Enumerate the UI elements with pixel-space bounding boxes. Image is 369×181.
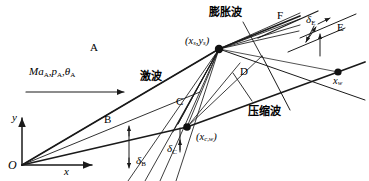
region-label-B: B (104, 114, 111, 125)
reflected-wave-lines (219, 49, 365, 110)
wall-point-label: xw (333, 76, 342, 87)
region-label-A: A (90, 42, 98, 53)
x-axis-label: x (64, 166, 69, 177)
expansion-wave-label: 膨胀波 (209, 7, 242, 18)
compression-point-open: (x (196, 131, 204, 142)
compression-wave-leader (233, 73, 252, 101)
wall-point-sub: w (338, 79, 342, 86)
delta-e-label: δE (306, 14, 315, 27)
compression-point-label: (xc,w) (196, 132, 217, 143)
delta-c-label: δC (167, 143, 177, 156)
compression-wave-label: 压缩波 (248, 106, 281, 117)
delta-e-subscript: E (311, 19, 315, 27)
shock-point-mid: ,y (196, 35, 203, 46)
shock-wave-label: 激波 (140, 71, 162, 82)
inflow-mach-symbol: Ma (29, 65, 44, 77)
inflow-conditions-label: MaA,pA,θA (29, 66, 75, 79)
shock-point-marker (215, 45, 223, 53)
region-label-E: E (337, 22, 344, 33)
region-label-F: F (277, 10, 283, 21)
inflow-angle-subscript: A (70, 71, 75, 79)
delta-c-subscript: C (172, 148, 177, 156)
compression-wave-lines (173, 49, 262, 132)
shock-point-label: (xs,ys) (185, 36, 209, 47)
shock-point-close: ) (206, 35, 210, 46)
region-label-D: D (240, 66, 248, 77)
y-axis-label: y (12, 112, 17, 123)
origin-label: O (8, 159, 17, 171)
shock-point-open: (x (185, 35, 193, 46)
compression-point-marker (183, 123, 191, 131)
compression-point-close: ) (213, 131, 217, 142)
region-label-C: C (176, 96, 183, 107)
compression-point-sub: c,w (204, 135, 213, 142)
wave-interaction-diagram: A B C D E F O x y MaA,pA,θA 激波 膨胀波 压缩波 (… (0, 0, 369, 181)
diagram-canvas (0, 0, 369, 181)
delta-b-label: δB (136, 155, 146, 168)
delta-b-subscript: B (141, 160, 146, 168)
